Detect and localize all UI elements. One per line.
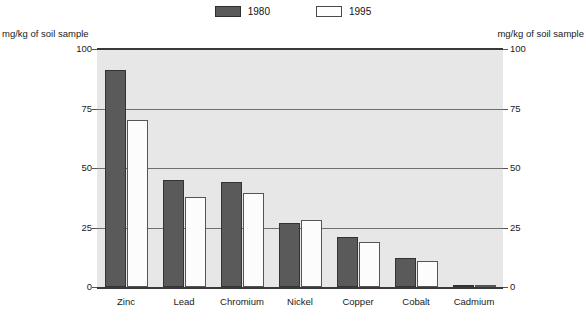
x-axis-label-cadmium: Cadmium bbox=[454, 296, 495, 307]
chart-legend: 1980 1995 bbox=[0, 0, 586, 22]
y-tick-mark-right-100 bbox=[503, 49, 508, 50]
x-axis-label-copper: Copper bbox=[342, 296, 373, 307]
bar bbox=[185, 197, 206, 287]
x-axis-label-chromium: Chromium bbox=[220, 296, 264, 307]
bar-group bbox=[163, 48, 206, 287]
bar bbox=[221, 182, 242, 287]
y-tick-mark-right-50 bbox=[503, 168, 508, 169]
bar bbox=[279, 223, 300, 287]
y-tick-label-left-75: 75 bbox=[81, 104, 92, 114]
bar-group bbox=[105, 48, 148, 287]
x-axis-label-lead: Lead bbox=[173, 296, 194, 307]
y-tick-mark-left-50 bbox=[92, 168, 97, 169]
bar-group bbox=[453, 48, 496, 287]
bar bbox=[359, 242, 380, 287]
y-tick-mark-left-0 bbox=[92, 287, 97, 288]
y-tick-mark-right-75 bbox=[503, 109, 508, 110]
bar bbox=[475, 285, 496, 287]
chart-plot-area bbox=[97, 48, 503, 289]
x-axis-label-nickel: Nickel bbox=[287, 296, 313, 307]
y-axis-unit-label-left: mg/kg of soil sample bbox=[2, 28, 89, 39]
bar bbox=[127, 120, 148, 287]
x-axis-label-zinc: Zinc bbox=[117, 296, 135, 307]
y-tick-label-right-0: 0 bbox=[510, 282, 515, 292]
bar bbox=[395, 258, 416, 287]
bar bbox=[417, 261, 438, 287]
y-tick-label-right-75: 75 bbox=[510, 104, 521, 114]
bar-group bbox=[221, 48, 264, 287]
plot-baseline bbox=[97, 287, 503, 289]
bar bbox=[243, 193, 264, 287]
y-tick-label-right-100: 100 bbox=[510, 44, 526, 54]
bar bbox=[105, 70, 126, 287]
legend-swatch-1980-icon bbox=[215, 6, 241, 17]
x-axis-label-cobalt: Cobalt bbox=[402, 296, 429, 307]
y-tick-label-right-50: 50 bbox=[510, 163, 521, 173]
y-tick-mark-left-25 bbox=[92, 228, 97, 229]
legend-swatch-1995-icon bbox=[316, 6, 342, 17]
bar bbox=[301, 220, 322, 287]
legend-entry-1995: 1995 bbox=[316, 6, 371, 17]
y-tick-mark-right-0 bbox=[503, 287, 508, 288]
y-tick-mark-right-25 bbox=[503, 228, 508, 229]
bar-group bbox=[279, 48, 322, 287]
y-axis-unit-label-right: mg/kg of soil sample bbox=[497, 28, 584, 39]
y-tick-label-left-25: 25 bbox=[81, 223, 92, 233]
legend-label-1995: 1995 bbox=[349, 6, 371, 17]
y-tick-label-left-50: 50 bbox=[81, 163, 92, 173]
legend-entry-1980: 1980 bbox=[215, 6, 270, 17]
bar bbox=[337, 237, 358, 287]
y-tick-mark-left-75 bbox=[92, 109, 97, 110]
y-tick-mark-left-100 bbox=[92, 49, 97, 50]
bar bbox=[163, 180, 184, 287]
bar bbox=[453, 285, 474, 287]
y-tick-label-left-100: 100 bbox=[76, 44, 92, 54]
bar-group bbox=[395, 48, 438, 287]
bar-group bbox=[337, 48, 380, 287]
y-tick-label-right-25: 25 bbox=[510, 223, 521, 233]
legend-label-1980: 1980 bbox=[248, 6, 270, 17]
